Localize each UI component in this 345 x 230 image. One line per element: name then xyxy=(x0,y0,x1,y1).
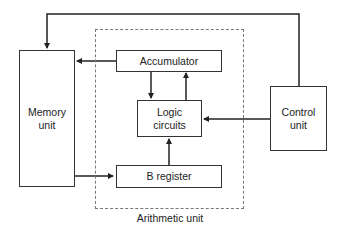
b-register-block: B register xyxy=(116,165,222,188)
memory-unit-block: Memory unit xyxy=(19,50,75,187)
b-register-label: B register xyxy=(147,170,192,183)
logic-circuits-block: Logic circuits xyxy=(137,100,202,137)
accumulator-block: Accumulator xyxy=(116,50,222,72)
accumulator-label: Accumulator xyxy=(140,55,198,68)
control-unit-label: Control unit xyxy=(282,106,316,132)
control-unit-block: Control unit xyxy=(270,86,327,151)
arithmetic-unit-label: Arithmetic unit xyxy=(110,212,230,224)
logic-circuits-label: Logic circuits xyxy=(153,106,186,132)
memory-unit-label: Memory unit xyxy=(28,106,66,132)
